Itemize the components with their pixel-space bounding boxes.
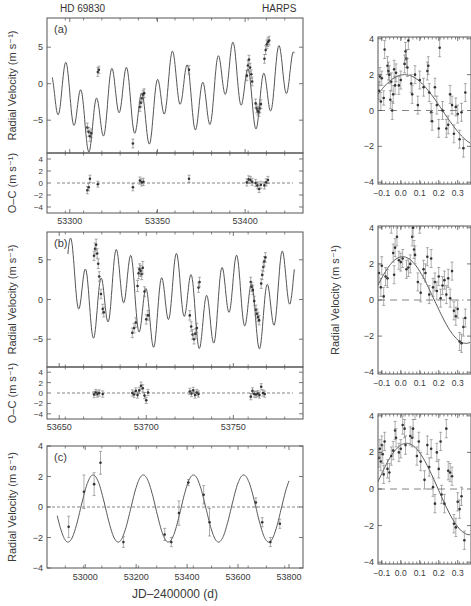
data-point (453, 133, 456, 136)
data-point (279, 522, 282, 525)
data-point (438, 46, 441, 49)
panel-label: (c) (54, 451, 67, 463)
data-point (208, 521, 211, 524)
data-point (251, 80, 254, 83)
y-tick-label: 0 (38, 79, 43, 89)
panel-d2: −4−2024−0.10.00.10.20.3 (364, 215, 471, 388)
panel-c: −4−20245300053200534005360053800(c)Radia… (6, 441, 303, 601)
data-point (417, 104, 420, 107)
data-point (90, 132, 93, 135)
data-point (399, 79, 402, 82)
data-point (264, 256, 267, 259)
data-point (251, 181, 254, 184)
data-point (382, 473, 385, 476)
y-tick-label: 0 (39, 179, 44, 188)
data-point (390, 223, 393, 226)
data-point (249, 66, 252, 69)
data-point (380, 264, 383, 267)
y-tick-label: −4 (364, 367, 374, 377)
y-tick-label: 4 (369, 411, 374, 421)
data-point (449, 297, 452, 300)
x-tick-label: −0.1 (373, 568, 390, 578)
y-tick-label: −2 (364, 521, 374, 531)
data-point (426, 255, 429, 258)
data-point (393, 68, 396, 71)
data-point (89, 178, 92, 181)
data-point (93, 483, 96, 486)
data-point (423, 479, 426, 482)
data-point (409, 435, 412, 438)
data-point (434, 502, 437, 505)
data-point (390, 81, 393, 84)
data-point (460, 495, 463, 498)
data-point (432, 286, 435, 289)
data-point (447, 124, 450, 127)
data-point (258, 319, 261, 322)
data-point (386, 468, 389, 471)
data-point (269, 541, 272, 544)
data-point (443, 502, 446, 505)
x-axis-label: JD–2400000 (d) (132, 587, 218, 601)
data-point (93, 255, 96, 258)
data-point (439, 440, 442, 443)
data-point (263, 393, 266, 396)
data-point (422, 268, 425, 271)
data-point (133, 393, 136, 396)
x-tick-label: 0.0 (395, 568, 407, 578)
data-point (195, 327, 198, 330)
y-tick-label: −4 (34, 203, 44, 212)
data-point (98, 392, 101, 395)
data-point (414, 73, 417, 76)
y-tick-label: 5 (38, 42, 43, 52)
data-point (261, 521, 264, 524)
y-tick-label: 0 (369, 106, 374, 116)
data-point (83, 490, 86, 493)
data-point (198, 281, 201, 284)
data-point (460, 111, 463, 114)
y-tick-label: 2 (39, 379, 44, 388)
y-tick-label: −5 (33, 334, 43, 344)
x-tick-label: 53350 (145, 216, 170, 226)
data-point (268, 39, 271, 42)
data-point (453, 310, 456, 313)
x-tick-label: 0.1 (414, 568, 426, 578)
data-point (147, 314, 150, 317)
data-point (453, 522, 456, 525)
x-tick-label: 0.0 (395, 188, 407, 198)
data-point (261, 274, 264, 277)
data-point (419, 460, 422, 463)
data-point (455, 526, 458, 529)
data-point (445, 293, 448, 296)
data-point (145, 399, 148, 402)
data-point (97, 183, 100, 186)
data-point (412, 227, 415, 230)
data-point (383, 440, 386, 443)
data-point (384, 275, 387, 278)
x-tick-label: 0.0 (395, 378, 407, 388)
data-point (407, 266, 410, 269)
data-point (436, 104, 439, 107)
data-point (399, 447, 402, 450)
data-point (449, 471, 452, 474)
data-point (462, 147, 465, 150)
data-point (382, 97, 385, 100)
data-point (163, 533, 166, 536)
data-point (463, 539, 466, 542)
data-point (260, 385, 263, 388)
data-point (458, 340, 461, 343)
phase-y-axis-label: Radial Velocity (m s⁻¹) (329, 245, 341, 355)
data-point (430, 257, 433, 260)
data-point (258, 394, 261, 397)
data-point (132, 142, 135, 145)
data-point (188, 178, 191, 181)
data-point (143, 290, 146, 293)
data-point (428, 91, 431, 94)
data-point (89, 135, 92, 138)
data-point (143, 92, 146, 95)
data-point (458, 138, 461, 141)
data-point (406, 66, 409, 69)
data-point (456, 113, 459, 116)
data-point (391, 109, 394, 112)
data-point (379, 447, 382, 450)
y-tick-label: 2 (369, 70, 374, 80)
